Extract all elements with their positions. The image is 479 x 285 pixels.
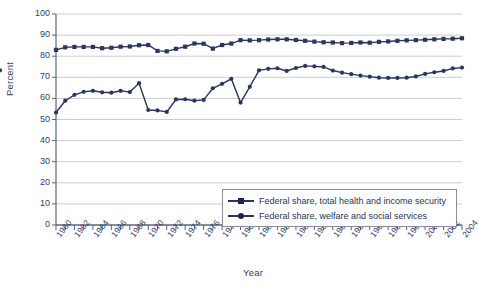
series-marker-0 [312,40,316,44]
series-marker-1 [229,77,233,81]
series-marker-0 [229,41,233,45]
series-marker-1 [118,89,122,93]
series-marker-1 [395,76,399,80]
series-marker-1 [405,76,409,80]
legend-label-0: Federal share, total health and income s… [259,196,446,206]
y-tick-label: 20 [20,178,50,187]
series-marker-0 [211,47,215,51]
series-marker-1 [82,90,86,94]
series-marker-0 [340,41,344,45]
series-marker-0 [192,41,196,45]
series-marker-1 [220,82,224,86]
series-marker-1 [358,74,362,78]
legend-marker-square-icon [228,195,254,206]
series-marker-0 [63,45,67,49]
series-marker-0 [303,39,307,43]
series-marker-1 [460,65,464,69]
series-marker-1 [423,72,427,76]
series-marker-1 [63,99,67,103]
legend-item-1: Federal share, welfare and social servic… [228,208,451,223]
y-tick-label: 100 [20,9,50,18]
series-marker-1 [377,76,381,80]
series-marker-0 [331,40,335,44]
series-marker-0 [285,37,289,41]
series-marker-1 [109,91,113,95]
series-marker-0 [146,43,150,47]
series-marker-0 [395,39,399,43]
series-marker-1 [0,68,2,72]
series-marker-0 [432,37,436,41]
series-marker-1 [174,97,178,101]
series-marker-0 [423,38,427,42]
series-marker-1 [91,89,95,93]
series-marker-1 [192,99,196,103]
series-marker-0 [451,37,455,41]
legend-item-0: Federal share, total health and income s… [228,193,451,208]
series-marker-1 [137,81,141,85]
series-marker-1 [321,65,325,69]
series-marker-1 [414,74,418,78]
series-marker-0 [165,49,169,53]
series-marker-1 [303,64,307,68]
legend-label-1: Federal share, welfare and social servic… [259,211,427,221]
series-marker-1 [368,75,372,79]
series-marker-0 [358,40,362,44]
y-axis-title: Percent [4,62,15,96]
series-marker-0 [321,40,325,44]
series-marker-1 [211,86,215,90]
series-marker-1 [155,108,159,112]
y-tick-label: 60 [20,93,50,102]
chart-legend: Federal share, total health and income s… [222,189,457,227]
y-tick-label: 80 [20,51,50,60]
series-marker-1 [146,108,150,112]
series-marker-0 [174,47,178,51]
series-marker-1 [441,69,445,73]
series-marker-0 [238,38,242,42]
series-marker-0 [82,45,86,49]
series-marker-0 [386,39,390,43]
chart-plot-svg [0,0,479,285]
chart-figure: 1009080706050403020100 Percent Year 1960… [0,0,479,285]
series-marker-1 [432,70,436,74]
series-marker-0 [128,44,132,48]
series-marker-0 [202,42,206,46]
series-marker-1 [312,64,316,68]
series-marker-1 [238,101,242,105]
series-marker-0 [349,41,353,45]
series-marker-1 [349,72,353,76]
series-marker-0 [155,49,159,53]
series-marker-0 [275,37,279,41]
series-marker-1 [100,90,104,94]
series-marker-0 [441,37,445,41]
series-marker-0 [100,46,104,50]
series-marker-0 [377,40,381,44]
series-marker-1 [285,69,289,73]
series-marker-0 [137,43,141,47]
series-marker-0 [460,36,464,40]
series-marker-1 [386,76,390,80]
series-marker-0 [294,38,298,42]
y-tick-label: 50 [20,115,50,124]
series-marker-0 [414,38,418,42]
series-marker-0 [368,41,372,45]
series-marker-1 [275,66,279,70]
series-marker-0 [266,37,270,41]
series-marker-1 [128,90,132,94]
y-tick-label: 90 [20,30,50,39]
series-marker-1 [340,71,344,75]
x-axis-title: Year [243,267,263,278]
series-marker-1 [72,93,76,97]
series-marker-0 [91,45,95,49]
series-line-1 [56,66,462,113]
series-marker-1 [248,85,252,89]
series-marker-1 [54,110,58,114]
y-tick-label: 0 [20,220,50,229]
y-axis-tick-labels: 1009080706050403020100 [18,0,50,285]
series-marker-0 [183,45,187,49]
series-marker-1 [202,98,206,102]
y-tick-label: 70 [20,72,50,81]
series-marker-1 [331,68,335,72]
series-marker-0 [405,38,409,42]
series-marker-0 [109,46,113,50]
series-marker-0 [118,45,122,49]
